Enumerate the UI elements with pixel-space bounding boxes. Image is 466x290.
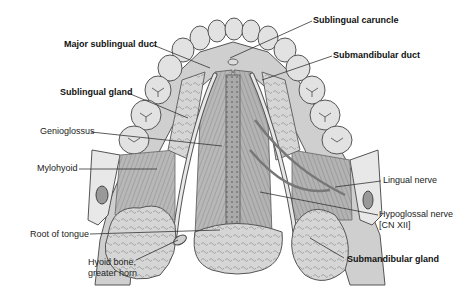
root-of-tongue-shape <box>194 224 282 275</box>
label-hypoglossal-nerve-line1: Hypoglossal nerve <box>379 209 453 220</box>
label-submandibular-gland: Submandibular gland <box>347 254 439 265</box>
label-hyoid-bone-line2: greater horn <box>88 268 137 279</box>
label-root-of-tongue: Root of tongue <box>30 229 89 240</box>
sublingual-caruncle-shape <box>228 59 238 65</box>
label-lingual-nerve: Lingual nerve <box>383 175 437 186</box>
label-mylohyoid: Mylohyoid <box>37 163 78 174</box>
label-major-sublingual-duct: Major sublingual duct <box>64 39 157 50</box>
label-genioglossus: Genioglossus <box>40 126 95 137</box>
label-hypoglossal-nerve-line2: [CN XII] <box>379 220 453 231</box>
label-submandibular-duct: Submandibular duct <box>333 50 420 61</box>
label-hypoglossal-nerve: Hypoglossal nerve [CN XII] <box>379 209 453 231</box>
label-hyoid-bone-line1: Hyoid bone, <box>88 257 137 268</box>
label-hyoid-bone: Hyoid bone, greater horn <box>88 257 137 279</box>
label-sublingual-caruncle: Sublingual caruncle <box>313 15 399 26</box>
label-sublingual-gland: Sublingual gland <box>60 87 133 98</box>
